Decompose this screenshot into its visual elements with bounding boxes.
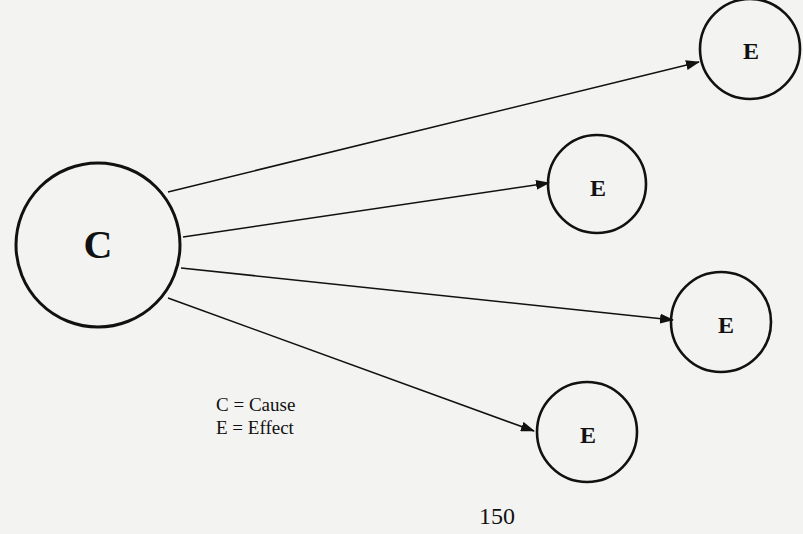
effect-node-1: E [700,0,800,99]
effect-node-label: E [718,312,734,338]
arrow-c-to-e1 [168,62,699,192]
cause-node-label: C [84,222,113,267]
diagram-canvas: C E E E E [0,0,803,534]
cause-effect-diagram: C E E E E C = Cause E = Effect 150 [0,0,803,534]
effect-node-3: E [671,272,771,372]
page-number: 150 [479,503,515,530]
legend: C = Cause E = Effect [216,393,295,439]
cause-node: C [16,163,180,327]
effect-node-label: E [580,422,596,448]
arrow-c-to-e3 [181,268,673,320]
effect-node-label: E [590,175,606,201]
legend-effect: E = Effect [216,416,295,439]
legend-cause: C = Cause [216,393,295,416]
effect-node-2: E [548,135,646,233]
arrow-c-to-e2 [183,183,549,237]
effect-node-4: E [537,382,637,482]
effect-node-label: E [743,38,759,64]
